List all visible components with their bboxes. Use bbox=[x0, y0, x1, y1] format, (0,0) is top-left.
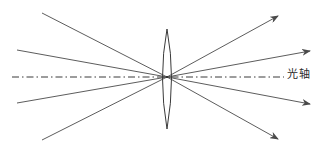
optical-axis-label: 光轴 bbox=[287, 68, 310, 81]
incident-ray-2 bbox=[17, 50, 167, 77]
refracted-ray-3 bbox=[167, 77, 310, 104]
incident-ray-4 bbox=[42, 77, 167, 140]
incident-ray-1 bbox=[42, 13, 167, 77]
focal-point-marker bbox=[166, 76, 168, 78]
refracted-ray-1 bbox=[167, 16, 278, 77]
refracted-ray-4 bbox=[167, 77, 278, 139]
optics-diagram: 光轴 bbox=[0, 0, 323, 153]
incident-ray-3 bbox=[17, 77, 167, 103]
optics-ray-diagram-svg bbox=[0, 0, 323, 153]
